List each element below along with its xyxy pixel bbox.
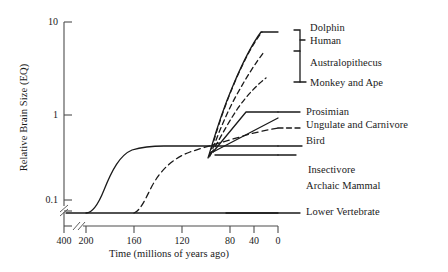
y-axis xyxy=(60,22,72,226)
dolphin-human-bracket xyxy=(294,30,300,51)
series-label-ungulate-and-carnivore: Ungulate and Carnivore xyxy=(306,119,408,130)
series-label-lower-vertebrate: Lower Vertebrate xyxy=(306,206,380,217)
series-label-prosimian: Prosimian xyxy=(306,106,349,117)
y-axis-title: Relative Brain Size (EQ) xyxy=(18,33,29,203)
series-line-bird xyxy=(134,128,278,213)
series-label-monkey-and-ape: Monkey and Ape xyxy=(310,77,383,88)
series-label-archaic-mammal: Archaic Mammal xyxy=(306,180,380,191)
series-label-bird: Bird xyxy=(306,135,325,146)
series-line-dolphin xyxy=(208,32,278,158)
series-label-human: Human xyxy=(310,35,341,46)
series-line-australopithecus xyxy=(210,52,264,156)
x-axis-title: Time (millions of years ago) xyxy=(60,248,278,259)
series-label-australopithecus: Australopithecus xyxy=(310,57,382,68)
series-label-dolphin: Dolphin xyxy=(310,22,345,33)
x-tick-label-160: 160 xyxy=(117,235,151,246)
x-tick-label-120: 120 xyxy=(165,235,199,246)
x-tick-label-0: 0 xyxy=(261,235,295,246)
x-tick-label-200: 200 xyxy=(69,235,103,246)
y-tick-label-0-1: 0.1 xyxy=(24,194,58,205)
series-label-insectivore: Insectivore xyxy=(308,164,355,175)
y-tick-label-10: 10 xyxy=(24,16,58,27)
y-tick-label-1: 1 xyxy=(24,109,58,120)
chart-plot-area xyxy=(0,0,448,272)
x-axis xyxy=(64,222,278,233)
brain-size-evolution-chart: 10 1 0.1 400 200 160 120 80 40 0 Relativ… xyxy=(0,0,448,272)
